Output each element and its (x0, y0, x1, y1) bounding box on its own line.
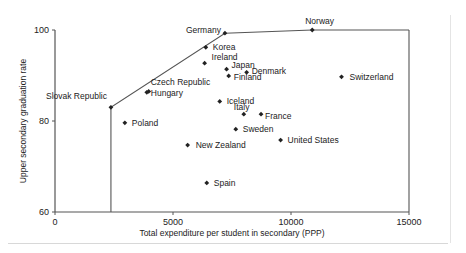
y-tick-label: 80 (39, 116, 49, 126)
data-points: Slovak RepublicCzech RepublicHungaryPola… (46, 16, 394, 188)
diamond-marker-icon (204, 180, 209, 185)
point-label: Norway (305, 16, 335, 26)
point-label: Switzerland (350, 72, 394, 82)
y-axis-title: Upper secondary graduation rate (18, 59, 28, 184)
point-label: Czech Republic (151, 77, 211, 87)
diamond-marker-icon (339, 74, 344, 79)
y-tick-label: 60 (39, 207, 49, 217)
data-point: France (259, 111, 292, 121)
point-label: France (265, 111, 292, 121)
x-tick-label: 10000 (278, 217, 303, 227)
data-point: Slovak Republic (46, 91, 113, 109)
x-tick-label: 5000 (163, 217, 183, 227)
point-label: New Zealand (196, 140, 246, 150)
diamond-marker-icon (310, 28, 315, 33)
data-point: Germany (186, 25, 227, 35)
divider (8, 243, 448, 244)
data-point: United States (278, 135, 338, 145)
diamond-marker-icon (226, 74, 231, 79)
diamond-marker-icon (224, 67, 229, 72)
divider-vertical (450, 15, 451, 243)
diamond-marker-icon (241, 112, 246, 117)
x-tick-label: 15000 (396, 217, 421, 227)
point-label: Finland (234, 72, 262, 82)
point-label: Hungary (151, 88, 184, 98)
data-point: Sweden (233, 124, 273, 134)
point-label: United States (288, 135, 339, 145)
diamond-marker-icon (202, 61, 207, 66)
point-label: Korea (213, 42, 236, 52)
point-label: Spain (214, 178, 236, 188)
data-point: Italy (234, 102, 250, 116)
data-point: New Zealand (185, 140, 246, 150)
data-point: Poland (122, 118, 158, 128)
point-label: Italy (234, 102, 250, 112)
diamond-marker-icon (122, 120, 127, 125)
diamond-marker-icon (259, 112, 264, 117)
x-axis-title: Total expenditure per student in seconda… (139, 228, 324, 238)
x-tick-label: 0 (52, 217, 57, 227)
diamond-marker-icon (233, 127, 238, 132)
point-label: Germany (186, 25, 222, 35)
data-point: Hungary (144, 88, 183, 98)
data-point: Spain (204, 178, 235, 188)
y-tick-label: 100 (34, 25, 49, 35)
data-point: Finland (226, 72, 262, 82)
point-label: Poland (132, 118, 159, 128)
diamond-marker-icon (217, 99, 222, 104)
data-point: Switzerland (339, 72, 394, 82)
diamond-marker-icon (278, 138, 283, 143)
point-label: Sweden (243, 124, 274, 134)
diamond-marker-icon (203, 45, 208, 50)
point-label: Slovak Republic (46, 91, 108, 101)
scatter-chart: 6080100050001000015000 Slovak RepublicCz… (0, 0, 466, 253)
diamond-marker-icon (185, 143, 190, 148)
